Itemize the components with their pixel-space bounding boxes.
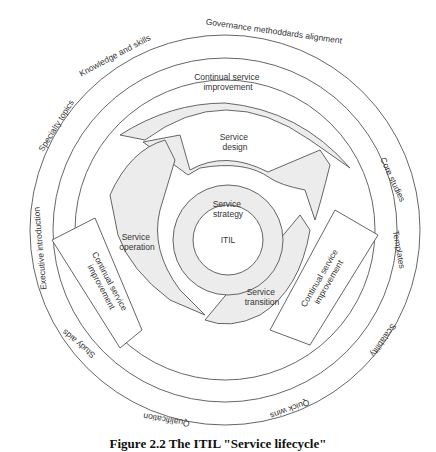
scalability-label: Scalability (368, 322, 399, 360)
core-studies-label: Core studies (378, 156, 407, 203)
qualification-label: Qualification (142, 411, 190, 429)
csi-top-label: Continual service improvement (194, 72, 262, 92)
service-operation-label: Service operation (119, 232, 155, 252)
study-aids-label: Study aids (60, 327, 97, 360)
service-transition-label: Service transition (245, 287, 280, 307)
service-strategy-label: Service strategy (213, 199, 244, 219)
itil-label: ITIL (221, 235, 236, 245)
templates-label: Templates (391, 230, 408, 270)
executive-label: Executive introduction (31, 206, 48, 290)
service-design-label: Service design (220, 132, 251, 152)
knowledge-label: Knowledge and skills (77, 32, 152, 78)
specialty-label: Specialty topics (36, 98, 76, 153)
quick-wins-label: Quick wins (269, 397, 311, 420)
figure-caption: Figure 2.2 The ITIL "Service lifecycle" (0, 436, 436, 452)
